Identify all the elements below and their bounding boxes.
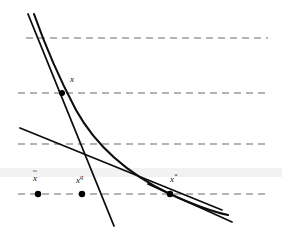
iteration-diagram: ~ x xq x x*: [0, 0, 282, 238]
diagram-canvas: [0, 0, 282, 238]
x-star-point: [167, 191, 173, 197]
x-mid-point: [59, 90, 65, 96]
x-q-point: [79, 191, 85, 197]
highlight-band: [0, 168, 282, 177]
x-tilde-point: [35, 191, 41, 197]
